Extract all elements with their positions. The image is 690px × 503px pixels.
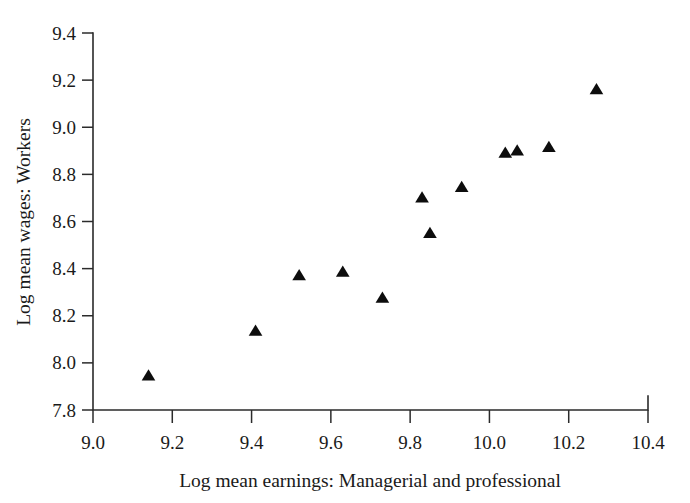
data-point-marker: [376, 291, 390, 302]
tick-mark-group: [82, 33, 648, 423]
y-axis-tick-label: 9.4: [52, 23, 76, 44]
plot-canvas: 7.88.08.28.48.68.89.09.29.4 9.09.29.49.6…: [0, 0, 690, 503]
y-axis-title: Log mean wages: Workers: [13, 118, 34, 326]
x-axis-tick-label: 9.8: [398, 432, 422, 453]
data-point-group: [142, 83, 604, 381]
y-axis-tick-label: 8.0: [52, 352, 76, 373]
x-axis-tick-label: 10.0: [473, 432, 506, 453]
data-point-marker: [336, 266, 350, 277]
y-axis-tick-label: 9.2: [52, 70, 76, 91]
data-point-marker: [510, 144, 524, 155]
data-point-marker: [292, 269, 306, 280]
y-axis-tick-label: 8.2: [52, 305, 76, 326]
x-axis-tick-label: 9.0: [81, 432, 105, 453]
data-point-marker: [498, 147, 512, 158]
y-axis-tick-label-group: 7.88.08.28.48.68.89.09.29.4: [52, 23, 76, 421]
x-axis-tick-label: 10.4: [631, 432, 665, 453]
data-point-marker: [415, 191, 429, 202]
data-point-marker: [249, 324, 263, 335]
x-axis-tick-label: 10.2: [552, 432, 585, 453]
y-axis-tick-label: 9.0: [52, 117, 76, 138]
x-axis-tick-label: 9.2: [160, 432, 184, 453]
x-axis-tick-label-group: 9.09.29.49.69.810.010.210.4: [81, 432, 665, 453]
y-axis-tick-label: 7.8: [52, 400, 76, 421]
y-axis-tick-label: 8.6: [52, 211, 76, 232]
y-axis-tick-label: 8.4: [52, 258, 76, 279]
data-point-marker: [142, 369, 156, 380]
x-axis-title: Log mean earnings: Managerial and profes…: [179, 470, 561, 491]
scatter-plot-figure: 7.88.08.28.48.68.89.09.29.4 9.09.29.49.6…: [0, 0, 690, 503]
data-point-marker: [423, 227, 437, 238]
y-axis-tick-label: 8.8: [52, 164, 76, 185]
x-axis-tick-label: 9.6: [319, 432, 343, 453]
data-point-marker: [590, 83, 604, 94]
data-point-marker: [455, 181, 469, 192]
axis-frame: [93, 33, 648, 410]
x-axis-tick-label: 9.4: [240, 432, 264, 453]
data-point-marker: [542, 141, 556, 152]
